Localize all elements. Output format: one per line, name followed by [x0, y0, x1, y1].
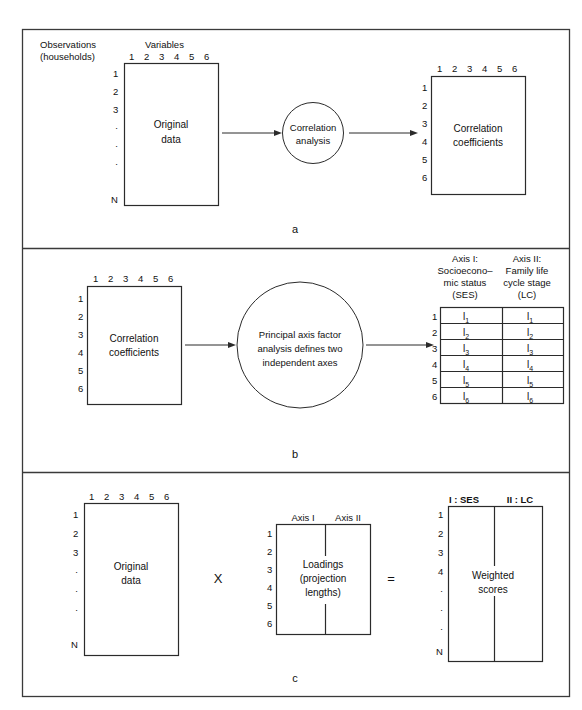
b-table-row-4: 4	[432, 359, 437, 370]
a-right-row-6: 6	[422, 172, 427, 183]
b-left-row-6: 6	[78, 383, 83, 394]
a-right-row-3: 3	[422, 118, 427, 129]
svg-text:l6: l6	[527, 391, 533, 404]
b-left-col-5: 5	[153, 273, 158, 284]
correlation-analysis-line2: analysis	[296, 135, 331, 146]
c-left-row-3: 3	[73, 547, 78, 558]
c-right-row-3: 3	[438, 547, 443, 558]
loadings-line3: lengths)	[305, 587, 341, 598]
b-left-row-3: 3	[78, 329, 83, 340]
b-left-col-6: 6	[168, 273, 173, 284]
original-data-line2-a: data	[161, 134, 181, 145]
svg-text:l5: l5	[463, 375, 469, 388]
a-right-row-5: 5	[422, 154, 427, 165]
c-right-row-N: N	[436, 646, 443, 657]
panel-a: Observations (households) Variables 1 2 …	[40, 39, 526, 235]
c-right-row-7: ·	[440, 623, 443, 634]
b-left-row-5: 5	[78, 365, 83, 376]
c-left-row-6: ·	[75, 604, 78, 615]
b-cell-c1-r3-sub: 3	[465, 349, 469, 356]
b-table-row-6: 6	[432, 391, 437, 402]
correlation-analysis-circle	[283, 103, 344, 164]
correlation-coefficients-box-b	[88, 287, 182, 405]
corr-coef-line2-a: coefficients	[453, 137, 503, 148]
b-left-col-4: 4	[138, 273, 143, 284]
svg-text:l1: l1	[463, 311, 469, 324]
svg-text:l4: l4	[527, 359, 533, 372]
b-left-col-3: 3	[123, 273, 128, 284]
a-left-col-6: 6	[204, 51, 209, 62]
c-left-row-5: ·	[75, 585, 78, 596]
c-mid-row-2: 2	[267, 546, 272, 557]
b-cell-c1-r4-sub: 4	[465, 365, 469, 372]
axis1-header-line2: Socioecono–	[438, 265, 494, 276]
svg-text:l4: l4	[463, 359, 469, 372]
c-left-row-N: N	[71, 639, 78, 650]
svg-text:l6: l6	[463, 391, 469, 404]
c-left-col-3: 3	[119, 491, 124, 502]
b-table-row-3: 3	[432, 343, 437, 354]
svg-text:l1: l1	[527, 311, 533, 324]
a-left-row-1: 1	[113, 68, 118, 79]
c-right-row-2: 2	[438, 528, 443, 539]
b-left-col-2: 2	[108, 273, 113, 284]
a-right-col-5: 5	[497, 63, 502, 74]
factor-analysis-line2: analysis defines two	[257, 343, 342, 354]
loadings-line1: Loadings	[303, 559, 344, 570]
arrow-factor-analysis-to-loadings	[366, 342, 434, 348]
c-mid-row-3: 3	[267, 564, 272, 575]
weighted-scores-line2: scores	[478, 584, 507, 595]
c-left-col-1: 1	[89, 491, 94, 502]
panel-c: 1 2 3 4 5 6 1 2 3 · · · N Original data …	[71, 491, 543, 684]
weighted-axis2-header: II : LC	[507, 494, 534, 505]
c-mid-row-5: 5	[267, 600, 272, 611]
b-cell-c2-r4-sub: 4	[529, 365, 533, 372]
equals-operator: =	[387, 571, 395, 586]
a-right-col-3: 3	[467, 63, 472, 74]
arrow-coefficients-to-factor-analysis	[185, 342, 236, 348]
a-left-col-3: 3	[159, 51, 164, 62]
b-cell-c2-r6-sub: 6	[529, 397, 533, 404]
svg-text:l3: l3	[463, 343, 469, 356]
axis2-header-line1: Axis II:	[513, 253, 542, 264]
c-right-row-5: ·	[440, 585, 443, 596]
loadings-axis1-header: Axis I	[291, 512, 314, 523]
a-left-col-2: 2	[144, 51, 149, 62]
svg-text:l2: l2	[463, 327, 469, 340]
a-right-row-1: 1	[422, 82, 427, 93]
original-data-line1-a: Original	[154, 119, 188, 130]
b-cell-c2-r5-sub: 5	[529, 381, 533, 388]
loadings-axis2-header: Axis II	[335, 512, 361, 523]
original-data-line2-c: data	[121, 575, 141, 586]
b-table-row-2: 2	[432, 327, 437, 338]
b-cell-c2-r1-sub: 1	[529, 317, 533, 324]
b-left-col-1: 1	[93, 273, 98, 284]
c-right-row-6: ·	[440, 604, 443, 615]
axis1-header-line4: (SES)	[452, 289, 477, 300]
axis2-header-line2: Family life	[506, 265, 549, 276]
a-right-row-2: 2	[422, 100, 427, 111]
loadings-line2: (projection	[300, 573, 347, 584]
weighted-scores-line1: Weighted	[472, 570, 514, 581]
multiply-operator: X	[214, 571, 223, 586]
a-left-row-5: ·	[115, 140, 118, 151]
a-left-row-N: N	[111, 194, 118, 205]
a-left-row-3: 3	[113, 104, 118, 115]
c-left-col-4: 4	[134, 491, 139, 502]
c-mid-row-1: 1	[267, 528, 272, 539]
c-left-col-5: 5	[149, 491, 154, 502]
arrow-correlation-to-coefficients	[349, 130, 418, 136]
axis2-header-line3: cycle stage	[503, 277, 551, 288]
b-table-row-5: 5	[432, 375, 437, 386]
panel-letter-b: b	[292, 448, 298, 460]
b-cell-c1-r1-sub: 1	[465, 317, 469, 324]
corr-coef-line1-b: Correlation	[110, 333, 159, 344]
c-left-row-4: ·	[75, 566, 78, 577]
svg-text:l5: l5	[527, 375, 533, 388]
corr-coef-line1-a: Correlation	[454, 123, 503, 134]
b-cell-c2-r2-sub: 2	[529, 333, 533, 340]
a-right-col-4: 4	[482, 63, 487, 74]
observations-label-line2: (households)	[40, 51, 95, 62]
b-table-row-1: 1	[432, 311, 437, 322]
b-left-row-2: 2	[78, 311, 83, 322]
